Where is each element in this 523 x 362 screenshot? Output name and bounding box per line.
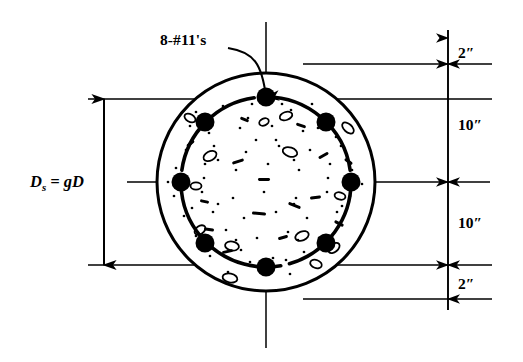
- aggregate-speckle: [249, 261, 252, 264]
- rebar-lower-left: [196, 234, 215, 253]
- aggregate-speckle: [209, 255, 212, 258]
- concrete-section: [157, 73, 375, 291]
- aggregate-speckle: [298, 169, 301, 172]
- aggregate-speckle: [271, 125, 274, 128]
- aggregate-speckle: [235, 239, 238, 242]
- aggregate-speckle: [217, 159, 220, 162]
- aggregate-speckle: [201, 191, 204, 194]
- aggregate-speckle: [208, 132, 211, 135]
- aggregate-speckle: [341, 205, 344, 208]
- aggregate-speckle: [272, 257, 275, 260]
- aggregate-speckle: [204, 163, 207, 166]
- dimension-label-3: 10″: [458, 214, 482, 231]
- aggregate-speckle: [212, 211, 215, 214]
- aggregate-speckle: [327, 177, 330, 180]
- aggregate-speckle: [203, 177, 206, 180]
- aggregate-speckle: [173, 195, 176, 198]
- dimension-label-2: 10″: [458, 116, 482, 133]
- aggregate-speckle: [275, 139, 278, 142]
- aggregate-speckle: [243, 217, 246, 220]
- rebar-upper-right: [317, 113, 336, 132]
- rebar-bottom: [257, 258, 276, 277]
- aggregate-speckle: [239, 127, 242, 130]
- aggregate-speckle: [278, 145, 281, 148]
- rebar-upper-left: [196, 113, 215, 132]
- aggregate-speckle: [175, 167, 178, 170]
- aggregate-speckle: [361, 183, 364, 186]
- aggregate-speckle: [275, 211, 278, 214]
- aggregate-speckle: [256, 237, 259, 240]
- aggregate-speckle: [303, 251, 306, 254]
- dimension-label-1: 2″: [458, 44, 474, 61]
- aggregate-speckle: [267, 163, 270, 166]
- aggregate-speckle: [167, 181, 170, 184]
- spiral-diameter-dimension: Ds = gD: [29, 99, 104, 265]
- aggregate-speckle: [285, 259, 288, 262]
- dimension-label-4: 2″: [458, 275, 474, 292]
- vertical-dimension-chain: 2″10″10″2″: [448, 30, 482, 310]
- aggregate-speckle: [263, 191, 266, 194]
- aggregate-speckle: [251, 103, 254, 106]
- aggregate-speckle: [289, 273, 292, 276]
- rebar-right: [342, 173, 361, 192]
- aggregate-speckle: [295, 197, 298, 200]
- aggregate-speckle: [183, 215, 186, 218]
- aggregate-speckle: [191, 207, 194, 210]
- aggregate-speckle: [189, 125, 192, 128]
- rebar-lower-right: [317, 234, 336, 253]
- aggregate-speckle: [195, 111, 198, 114]
- aggregate-speckle: [293, 159, 296, 162]
- aggregate-speckle: [240, 249, 243, 252]
- aggregate-speckle: [290, 109, 293, 112]
- aggregate-speckle: [287, 231, 290, 234]
- aggregate-speckle: [217, 203, 220, 206]
- aggregate-speckle: [245, 151, 248, 154]
- aggregate-speckle: [326, 191, 329, 194]
- diagram-canvas: 8-#11's Ds = gD 2″10″10″2″: [0, 0, 523, 362]
- aggregate-speckle: [235, 169, 238, 172]
- aggregate-speckle: [306, 217, 309, 220]
- aggregate-speckle: [225, 229, 228, 232]
- rebar-left: [172, 173, 191, 192]
- aggregate-speckle: [255, 139, 258, 142]
- aggregate-speckle: [329, 163, 332, 166]
- aggregate-speckle: [232, 197, 235, 200]
- aggregate-speckle: [309, 149, 312, 152]
- aggregate-speckle: [336, 211, 339, 214]
- aggregate-dash: [258, 178, 270, 181]
- aggregate-speckle: [302, 130, 305, 133]
- column-cross-section-figure: 8-#11's Ds = gD 2″10″10″2″: [0, 0, 523, 362]
- aggregate-speckle: [281, 103, 284, 106]
- spiral-diameter-label: Ds = gD: [29, 172, 84, 193]
- rebar-callout-label: 8-#11's: [160, 31, 206, 48]
- aggregate-speckle: [213, 145, 216, 148]
- aggregate-speckle: [311, 103, 314, 106]
